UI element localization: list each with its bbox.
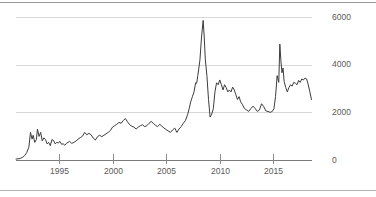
y-tick-label: 2000: [332, 107, 351, 117]
gridlines: [16, 18, 312, 161]
y-tick-label: 6000: [332, 12, 351, 22]
x-tick-label: 2005: [157, 166, 176, 176]
x-tick-label: 2010: [211, 166, 230, 176]
x-tick-label: 2000: [104, 166, 123, 176]
y-tick-label: 4000: [332, 59, 351, 69]
x-tick-label: 1995: [50, 166, 69, 176]
x-axis-tick-marks: [60, 154, 274, 164]
y-axis-tick-labels: 0200040006000: [332, 12, 351, 165]
line-chart-plot: 0200040006000 19952000200520102015: [0, 0, 376, 197]
data-series: [16, 20, 311, 159]
chart-card: 0200040006000 19952000200520102015: [0, 0, 376, 197]
y-tick-label: 0: [332, 155, 337, 165]
x-tick-label: 2015: [264, 166, 283, 176]
x-axis-tick-labels: 19952000200520102015: [50, 166, 283, 176]
series-line: [16, 20, 311, 159]
